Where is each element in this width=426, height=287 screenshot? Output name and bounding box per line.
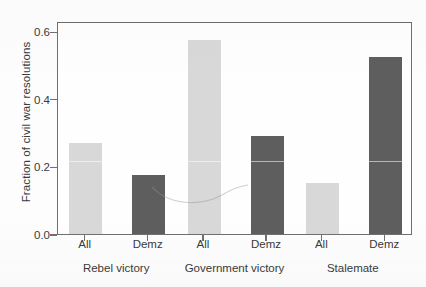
bar-rebel-victory-all — [69, 143, 102, 234]
y-tick-label: 0.0 — [10, 229, 50, 241]
plot-area — [57, 22, 412, 235]
x-group-label: Government victory — [185, 262, 285, 274]
x-group-label: Rebel victory — [83, 262, 149, 274]
y-tick-label: 0.6 — [10, 26, 50, 38]
bar-government-victory-demz — [251, 136, 284, 234]
x-category-label: All — [315, 238, 328, 250]
bar-stalemate-demz — [369, 57, 402, 235]
y-tick-mark — [50, 32, 57, 33]
x-category-label: Demz — [369, 238, 399, 250]
x-category-label: All — [78, 238, 91, 250]
x-group-label: Stalemate — [327, 262, 379, 274]
scanline-artifact — [188, 161, 221, 162]
scanline-artifact — [369, 161, 402, 162]
x-category-label: Demz — [251, 238, 281, 250]
y-tick-mark — [50, 234, 57, 235]
scanline-artifact — [251, 161, 284, 162]
bar-chart-figure: Fraction of civil war resolutions 0.00.2… — [0, 0, 426, 287]
y-tick-label: 0.4 — [10, 94, 50, 106]
bar-government-victory-all — [188, 40, 221, 234]
y-tick-label: 0.2 — [10, 161, 50, 173]
x-category-label: Demz — [133, 238, 163, 250]
bar-stalemate-all — [306, 183, 339, 234]
scanline-artifact — [69, 161, 102, 162]
y-tick-mark — [50, 167, 57, 168]
bar-rebel-victory-demz — [132, 175, 165, 234]
x-category-label: All — [197, 238, 210, 250]
y-tick-mark — [50, 99, 57, 100]
